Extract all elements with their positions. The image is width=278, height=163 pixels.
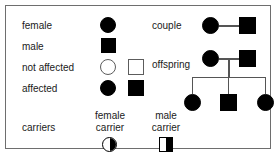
couple-female-filled-circle-icon [202,17,219,34]
descent-line-2 [229,59,230,77]
pedigree-label-offspring: offspring [152,59,190,70]
carrier-label-female-line2: carrier [96,122,124,133]
filled-circle-icon [100,17,116,33]
carrier-label-female-line1: female [95,110,125,121]
half-filled-circle-icon [102,137,117,152]
child-drop-line-2 [228,77,229,94]
filled-square-icon [128,80,144,96]
legend-label-not-affected: not affected [22,62,74,73]
circle-right-half-fill [110,138,117,151]
filled-square-icon [101,38,116,53]
pedigree-label-couple: couple [152,20,181,31]
carrier-label-male-line1: male [155,110,177,121]
pedigree-legend-frame: female male not affected affected carrie… [5,5,271,149]
child-2-filled-square-icon [220,94,237,111]
square-right-half-fill [166,138,172,151]
child-1-filled-circle-icon [184,94,201,111]
offspring-parent-female-filled-circle-icon [202,50,219,67]
couple-mating-line-2 [219,26,239,27]
couple-male-filled-square-icon [239,17,256,34]
open-square-icon [128,59,144,75]
legend-label-carriers: carriers [22,122,55,133]
legend-label-female: female [22,20,52,31]
legend-label-affected: affected [22,83,57,94]
child-drop-line-1 [192,77,193,94]
open-circle-icon [100,59,116,75]
filled-circle-icon [100,80,116,96]
half-filled-square-icon [159,137,173,152]
carrier-label-male-line2: carrier [152,122,180,133]
child-3-filled-circle-icon [257,94,274,111]
child-drop-line-3 [265,77,266,94]
offspring-parent-male-filled-square-icon [239,50,256,67]
legend-label-male: male [22,41,44,52]
